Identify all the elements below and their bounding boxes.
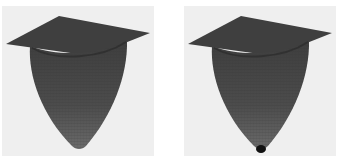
surface-plot-right — [184, 6, 336, 156]
top-plane — [188, 16, 332, 56]
paraboloid-well-right — [184, 6, 336, 156]
top-plane — [6, 16, 150, 56]
surface-plot-left — [2, 6, 154, 156]
tip-marker — [256, 145, 266, 153]
paraboloid-well-left — [2, 6, 154, 156]
